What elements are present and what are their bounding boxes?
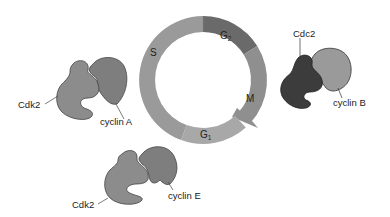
phase-m-segment [239,46,267,123]
label-cyclin-e: cyclin E [168,190,201,201]
phase-label-m: M [246,93,254,104]
phase-s-segment [139,16,203,140]
label-cdk2-e: Cdk2 [72,199,94,210]
label-cdc2: Cdc2 [293,28,315,39]
phase-label-s: S [150,47,157,58]
complex-cdk2-cyclin-a [45,57,127,119]
cell-cycle-diagram: S G2 M G1 Cdk2 cyclin A Cdc2 cyclin B Cd… [0,0,390,217]
phase-g1-segment [181,116,246,144]
cell-cycle-ring [139,16,267,144]
label-cdk2-a: Cdk2 [18,99,40,110]
complex-cdk2-cyclin-e [98,147,177,205]
label-cyclin-a: cyclin A [100,116,133,127]
label-cyclin-b: cyclin B [333,97,366,108]
